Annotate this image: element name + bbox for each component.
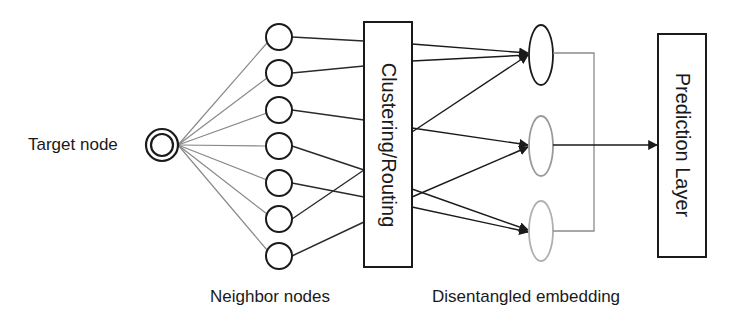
- neighbor-node: [266, 206, 292, 232]
- neighbor-to-routing-edges: [292, 37, 364, 256]
- target-to-neighbor-edges: [178, 43, 267, 250]
- prediction-layer-label: Prediction Layer: [671, 73, 694, 218]
- neighbor-node: [266, 24, 292, 50]
- neighbor-node: [266, 133, 292, 159]
- neighbor-nodes-label: Neighbor nodes: [210, 287, 330, 307]
- routing-box-label: Clustering/Routing: [377, 63, 400, 228]
- target-node-label: Target node: [28, 135, 118, 155]
- neighbor-node: [266, 243, 292, 269]
- neighbor-nodes: [266, 24, 292, 269]
- disentangled-embedding-label: Disentangled embedding: [432, 287, 620, 307]
- disentangled-embeddings: [529, 25, 553, 261]
- diagram-canvas: [0, 0, 736, 320]
- neighbor-node: [266, 97, 292, 123]
- neighbor-node: [266, 170, 292, 196]
- embedding-concat-bracket: [553, 53, 594, 231]
- embedding-ellipse: [529, 25, 553, 85]
- neighbor-node: [266, 60, 292, 86]
- embedding-ellipse: [529, 116, 553, 176]
- routing-to-embedding-edges: [412, 44, 528, 232]
- embedding-ellipse: [529, 201, 553, 261]
- target-node-icon: [146, 129, 178, 161]
- disentangled-gnn-diagram: Target node Neighbor nodes Disentangled …: [0, 0, 736, 320]
